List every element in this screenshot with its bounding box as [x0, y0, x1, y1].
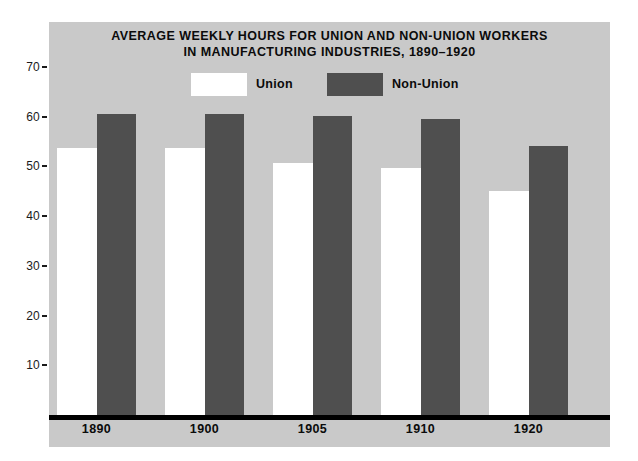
y-axis-tick: 60	[26, 110, 49, 124]
y-axis-tick-label: 70	[26, 60, 40, 74]
y-axis-tick-mark	[42, 165, 47, 167]
bar-union-1920	[489, 191, 529, 417]
y-axis-tick: 30	[26, 259, 49, 273]
chart-figure: AVERAGE WEEKLY HOURS FOR UNION AND NON-U…	[0, 0, 638, 461]
x-axis-baseline	[49, 415, 610, 420]
bar-union-1900	[165, 148, 205, 417]
x-axis-tick-label-1905: 1905	[263, 422, 362, 436]
y-axis-tick-mark	[42, 315, 47, 317]
y-axis-tick-label: 20	[26, 309, 40, 323]
y-axis-tick-label: 40	[26, 209, 40, 223]
bar-non-union-1910	[421, 119, 461, 417]
y-axis-tick-label: 10	[26, 358, 40, 372]
bar-union-1905	[273, 163, 313, 417]
bar-union-1910	[381, 168, 421, 417]
y-axis-tick-mark	[42, 265, 47, 267]
bar-non-union-1920	[529, 146, 569, 417]
y-axis-tick: 40	[26, 209, 49, 223]
y-axis-tick: 50	[26, 159, 49, 173]
bar-non-union-1890	[97, 114, 137, 417]
bar-non-union-1900	[205, 114, 245, 417]
bar-non-union-1905	[313, 116, 353, 417]
plot-area	[49, 22, 610, 417]
x-axis-tick-label-1890: 1890	[47, 422, 146, 436]
y-axis-tick-label: 60	[26, 110, 40, 124]
x-axis-tick-label-1910: 1910	[371, 422, 470, 436]
y-axis-tick-mark	[42, 364, 47, 366]
y-axis-tick-label: 30	[26, 259, 40, 273]
y-axis-tick: 20	[26, 309, 49, 323]
y-axis-tick-mark	[42, 116, 47, 118]
y-axis: 10203040506070	[0, 0, 49, 461]
x-axis: 18901900190519101920	[49, 422, 610, 446]
y-axis-tick: 10	[26, 358, 49, 372]
bar-union-1890	[57, 148, 97, 417]
x-axis-tick-label-1900: 1900	[155, 422, 254, 436]
y-axis-tick: 70	[26, 60, 49, 74]
y-axis-tick-label: 50	[26, 159, 40, 173]
x-axis-tick-label-1920: 1920	[479, 422, 578, 436]
y-axis-tick-mark	[42, 66, 47, 68]
y-axis-tick-mark	[42, 215, 47, 217]
